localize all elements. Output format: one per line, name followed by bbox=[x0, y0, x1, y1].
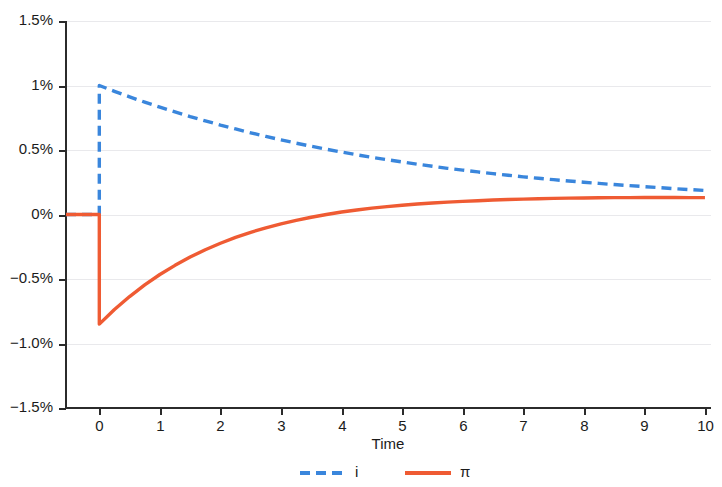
legend-label-pi[interactable]: π bbox=[460, 463, 470, 480]
y-tick-label: 1% bbox=[31, 76, 53, 93]
x-tick-label: 9 bbox=[640, 417, 648, 434]
x-tick-group: 012345678910 bbox=[95, 408, 714, 434]
x-tick-label: 7 bbox=[519, 417, 527, 434]
x-tick-label: 10 bbox=[697, 417, 714, 434]
y-tick-label: −0.5% bbox=[10, 269, 53, 286]
chart-legend: iπ bbox=[300, 463, 470, 480]
y-tick-label: 0.5% bbox=[19, 140, 53, 157]
x-tick-label: 6 bbox=[459, 417, 467, 434]
x-tick-label: 2 bbox=[216, 417, 224, 434]
x-tick-label: 8 bbox=[580, 417, 588, 434]
x-tick-label: 0 bbox=[95, 417, 103, 434]
y-tick-label: 0% bbox=[31, 205, 53, 222]
data-series-group bbox=[66, 86, 705, 325]
y-tick-label: 1.5% bbox=[19, 11, 53, 28]
y-tick-label: −1.0% bbox=[10, 334, 53, 351]
x-axis-title: Time bbox=[372, 435, 405, 452]
legend-label-i[interactable]: i bbox=[355, 463, 358, 480]
x-tick-label: 3 bbox=[277, 417, 285, 434]
x-tick-label: 1 bbox=[156, 417, 164, 434]
x-tick-label: 4 bbox=[338, 417, 346, 434]
y-tick-label: −1.5% bbox=[10, 398, 53, 415]
y-axis: −1.5%−1.0%−0.5%0%0.5%1%1.5% bbox=[10, 11, 66, 415]
impulse-response-chart: −1.5%−1.0%−0.5%0%0.5%1%1.5% 012345678910… bbox=[0, 0, 722, 487]
y-tick-group: −1.5%−1.0%−0.5%0%0.5%1%1.5% bbox=[10, 11, 66, 415]
series-line-pi bbox=[66, 197, 705, 324]
x-tick-label: 5 bbox=[398, 417, 406, 434]
x-axis: 012345678910 bbox=[66, 408, 714, 434]
chart-canvas: −1.5%−1.0%−0.5%0%0.5%1%1.5% 012345678910… bbox=[0, 0, 722, 487]
gridlines bbox=[66, 22, 711, 409]
